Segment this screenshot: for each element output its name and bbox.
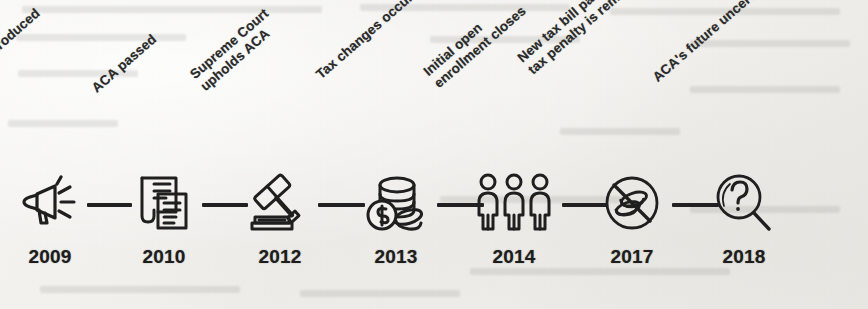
- timeline-year-2018: 2018: [696, 246, 792, 268]
- caption-line: Tax changes occured: [313, 0, 428, 82]
- three-people-icon: [466, 166, 562, 240]
- timeline-stop-2009[interactable]: 2009: [2, 166, 98, 268]
- caption-line: ACA passed: [89, 32, 160, 96]
- no-coins-icon: [584, 166, 680, 240]
- timeline-stop-2018[interactable]: 2018: [696, 166, 792, 268]
- aca-timeline: ACA introduced ACA passed Supreme Court …: [0, 0, 868, 309]
- event-caption-2010: ACA passed: [89, 32, 208, 152]
- timeline-year-2010: 2010: [116, 246, 212, 268]
- coins-dollar-icon: [348, 166, 444, 240]
- timeline-stop-2014[interactable]: 2014: [466, 166, 562, 268]
- magnifier-question-icon: [696, 166, 792, 240]
- event-caption-2009: ACA introduced: [0, 6, 101, 152]
- timeline-year-2017: 2017: [584, 246, 680, 268]
- timeline-year-2012: 2012: [232, 246, 328, 268]
- caption-line: ACA introduced: [0, 6, 43, 86]
- timeline-year-2013: 2013: [348, 246, 444, 268]
- megaphone-icon: [2, 166, 98, 240]
- timeline-year-2014: 2014: [466, 246, 562, 268]
- gavel-icon: [232, 166, 328, 240]
- event-caption-2012: Supreme Court upholds ACA: [187, 6, 332, 152]
- documents-icon: [116, 166, 212, 240]
- timeline-stop-2017[interactable]: 2017: [584, 166, 680, 268]
- timeline-stop-2012[interactable]: 2012: [232, 166, 328, 268]
- timeline-stop-2013[interactable]: 2013: [348, 166, 444, 268]
- timeline-stop-2010[interactable]: 2010: [116, 166, 212, 268]
- timeline-year-2009: 2009: [2, 246, 98, 268]
